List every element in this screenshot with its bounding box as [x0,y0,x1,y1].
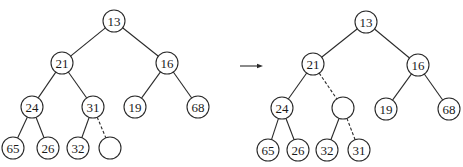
node-label: 16 [161,56,175,71]
tree-before: 13211624311968652632 [2,10,209,159]
node-label: 26 [292,143,306,158]
edge-n31-n32 [82,117,89,137]
edge-hole-n31-dashed [347,118,355,139]
edge-n21-hole-dashed [319,73,337,99]
node-65: 65 [257,139,279,161]
node-16: 16 [156,52,178,74]
node-label: 13 [360,15,373,30]
edge-n16-n68 [424,74,442,100]
node-21: 21 [302,53,324,75]
node-label: 13 [108,14,121,29]
edge-n16-n19 [393,74,412,100]
edge-n24-n26 [36,117,44,138]
edge-n21-n24 [38,72,56,98]
node-24: 24 [21,96,43,118]
edge-n31-hole-dashed [97,117,106,138]
node-label: 21 [307,57,320,72]
node-label: 32 [321,143,334,158]
edge-n13-n16 [375,29,410,58]
node-label: 19 [129,100,142,115]
node-19: 19 [375,98,397,120]
edge-hole-n32 [331,118,339,139]
node-68: 68 [187,96,209,118]
arrow-head-icon [257,64,263,68]
tree-after: 13211624196865263231 [257,11,460,161]
empty-hole-node [99,137,121,159]
node-65: 65 [2,137,24,159]
node-label: 31 [353,143,366,158]
node-26: 26 [287,139,309,161]
edge-n24-n65 [18,117,28,138]
edge-n24-n65 [272,118,279,139]
node-label: 24 [276,101,290,116]
edge-n13-n16 [123,28,159,56]
node-circle [99,137,121,159]
node-label: 68 [192,100,205,115]
edge-n21-n31 [68,72,86,98]
node-32: 32 [67,137,89,159]
node-label: 16 [412,58,426,73]
node-label: 19 [380,102,393,117]
edge-n13-n21 [71,28,106,56]
node-13: 13 [103,10,125,32]
node-circle [332,97,354,119]
heap-diagram: 13211624311968652632 1321162419686526323… [0,0,463,167]
node-21: 21 [51,52,73,74]
node-24: 24 [271,97,293,119]
edge-n24-n26 [286,118,294,139]
edge-n16-n19 [142,72,161,98]
transition-arrow-icon [240,64,263,68]
node-label: 24 [26,100,40,115]
node-26: 26 [37,137,59,159]
node-31: 31 [82,96,104,118]
node-31: 31 [348,139,370,161]
node-label: 21 [56,56,69,71]
edge-n13-n21 [322,29,358,57]
edge-n16-n68 [173,72,191,98]
node-19: 19 [124,96,146,118]
node-32: 32 [316,139,338,161]
node-68: 68 [438,98,460,120]
edge-n21-n24 [288,73,306,99]
node-label: 32 [72,141,85,156]
node-label: 68 [443,102,456,117]
node-label: 26 [42,141,56,156]
node-label: 31 [87,100,100,115]
empty-hole-node [332,97,354,119]
node-13: 13 [355,11,377,33]
node-16: 16 [407,54,429,76]
node-label: 65 [262,143,275,158]
node-label: 65 [7,141,20,156]
